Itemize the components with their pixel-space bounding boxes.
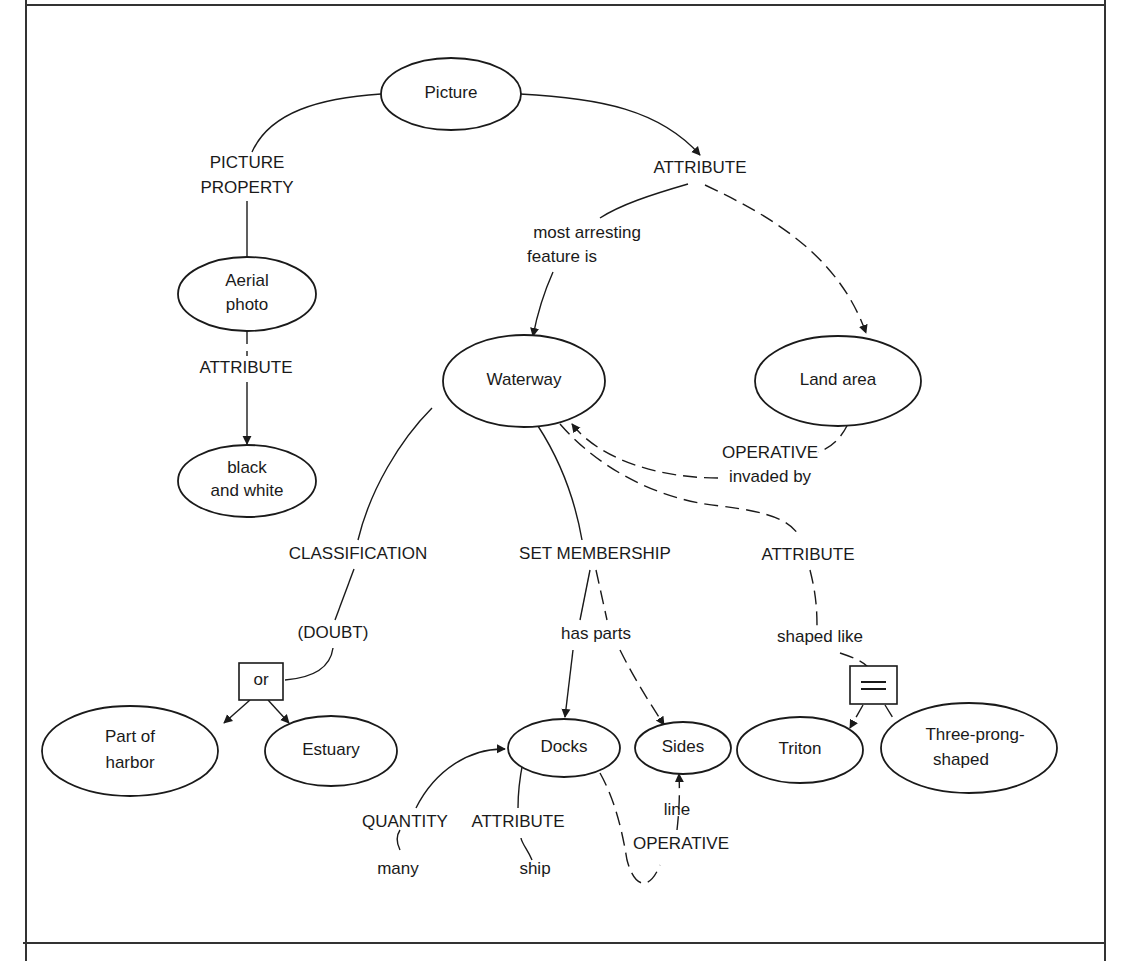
node-part-of-harbor: Part of harbor xyxy=(42,706,218,796)
node-triton: Triton xyxy=(737,717,863,783)
semantic-network-diagram: Picture Aerial photo black and white Wat… xyxy=(0,0,1134,961)
label-has-parts: has parts xyxy=(561,624,631,643)
label-set-membership: SET MEMBERSHIP xyxy=(519,544,671,563)
node-estuary: Estuary xyxy=(265,716,397,786)
edge-set-membership-to-has-parts-dashed xyxy=(596,570,607,620)
edge-picture-to-picture-property xyxy=(252,94,381,152)
edge-quantity-to-docks xyxy=(416,749,505,808)
label-most-arresting-1: most arresting xyxy=(533,223,641,242)
edge-or-to-part-of-harbor xyxy=(224,700,250,723)
node-waterway: Waterway xyxy=(443,335,605,427)
label-operative-bottom: OPERATIVE xyxy=(633,834,729,853)
label-picture-property-2: PROPERTY xyxy=(200,178,293,197)
svg-text:harbor: harbor xyxy=(105,753,154,772)
edge-invaded-by-to-waterway xyxy=(572,424,718,478)
svg-text:Part of: Part of xyxy=(105,727,155,746)
edge-docks-to-operative-loop xyxy=(600,773,660,883)
svg-text:or: or xyxy=(253,670,268,689)
label-doubt: (DOUBT) xyxy=(298,623,369,642)
node-aerial-photo: Aerial photo xyxy=(178,257,316,331)
svg-text:Picture: Picture xyxy=(425,83,478,102)
label-classification: CLASSIFICATION xyxy=(289,544,428,563)
label-line: line xyxy=(664,800,690,819)
label-ship: ship xyxy=(519,859,550,878)
label-invaded-by: invaded by xyxy=(729,467,812,486)
edge-ship-to-attribute xyxy=(521,838,532,860)
edge-attribute-to-shaped-like xyxy=(810,570,817,626)
svg-text:Aerial: Aerial xyxy=(225,271,268,290)
label-many: many xyxy=(377,859,419,878)
node-land-area: Land area xyxy=(755,336,921,426)
label-picture-property-1: PICTURE xyxy=(210,153,285,172)
node-docks: Docks xyxy=(508,719,620,777)
edge-waterway-to-set-membership xyxy=(538,426,582,540)
svg-text:Waterway: Waterway xyxy=(487,370,562,389)
equals-box xyxy=(850,666,897,704)
node-black-and-white: black and white xyxy=(178,445,316,517)
label-attribute-right: ATTRIBUTE xyxy=(761,545,854,564)
svg-text:Land area: Land area xyxy=(800,370,877,389)
edge-equals-to-triton xyxy=(850,705,863,728)
svg-text:Sides: Sides xyxy=(662,737,705,756)
label-most-arresting-2: feature is xyxy=(527,247,597,266)
edge-land-area-to-operative xyxy=(818,424,848,452)
edge-set-membership-to-has-parts xyxy=(580,570,590,620)
label-quantity: QUANTITY xyxy=(362,812,448,831)
edge-attribute-to-most-arresting xyxy=(600,184,688,218)
edge-doubt-to-or xyxy=(285,648,333,680)
edge-has-parts-to-docks xyxy=(565,650,573,717)
svg-text:shaped: shaped xyxy=(933,750,989,769)
label-attribute-top: ATTRIBUTE xyxy=(653,158,746,177)
svg-text:and white: and white xyxy=(211,481,284,500)
svg-text:photo: photo xyxy=(226,295,269,314)
svg-text:black: black xyxy=(227,458,267,477)
edge-many-to-quantity xyxy=(397,830,400,850)
edge-or-to-estuary xyxy=(268,700,289,723)
edge-has-parts-to-sides xyxy=(620,650,664,725)
label-attribute-aerial: ATTRIBUTE xyxy=(199,358,292,377)
node-sides: Sides xyxy=(635,722,731,774)
edge-picture-to-attribute xyxy=(520,94,700,155)
label-attribute-docks: ATTRIBUTE xyxy=(471,812,564,831)
edge-attribute-to-land-area xyxy=(705,185,866,333)
label-shaped-like: shaped like xyxy=(777,627,863,646)
edge-shaped-like-to-equals xyxy=(840,653,868,667)
or-box: or xyxy=(239,663,283,700)
svg-text:Estuary: Estuary xyxy=(302,740,360,759)
edge-waterway-to-classification xyxy=(358,408,432,540)
node-three-prong-shaped: Three-prong- shaped xyxy=(881,703,1057,793)
edge-classification-to-doubt xyxy=(335,569,354,620)
edge-most-arresting-to-waterway xyxy=(533,272,553,336)
svg-text:Docks: Docks xyxy=(540,737,587,756)
node-picture: Picture xyxy=(381,58,521,130)
label-operative-1: OPERATIVE xyxy=(722,443,818,462)
svg-text:Three-prong-: Three-prong- xyxy=(925,725,1024,744)
svg-text:Triton: Triton xyxy=(779,739,822,758)
